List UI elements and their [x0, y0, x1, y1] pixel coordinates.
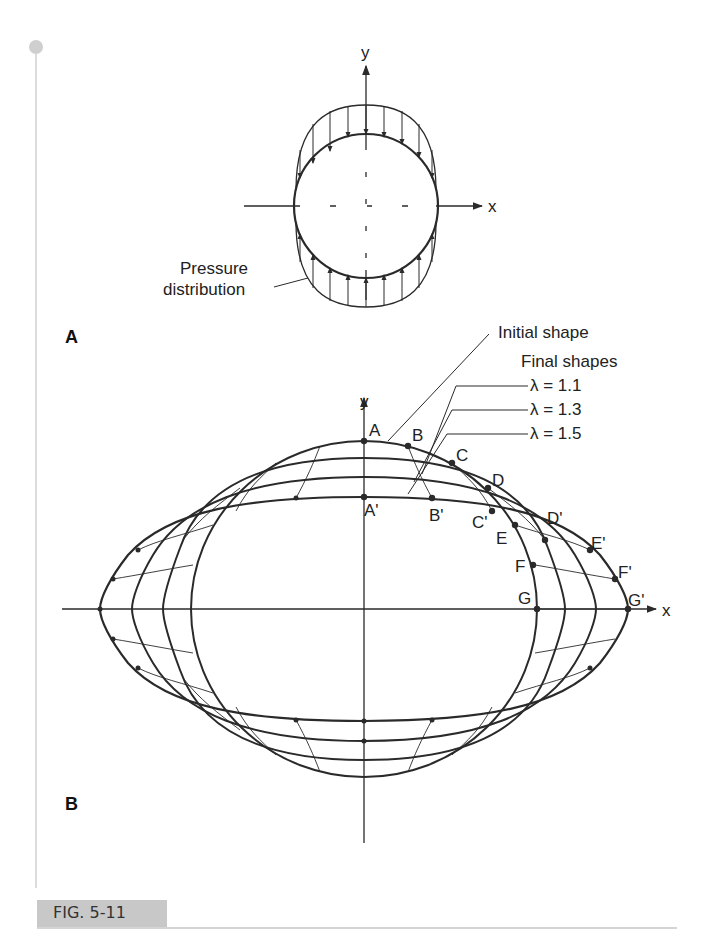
figure-canvas: y x Pressure distribution A	[0, 0, 710, 930]
panel-b-label: B	[65, 794, 78, 814]
lambda-label-1-1: λ = 1.1	[530, 376, 582, 395]
panel-a	[244, 66, 482, 307]
point-label-c: C	[456, 446, 468, 465]
panel-b-y-label: y	[360, 392, 369, 411]
point-label-c-prime: C'	[472, 513, 488, 532]
point-label-d-prime: D'	[547, 509, 563, 528]
point-label-b: B	[412, 426, 423, 445]
pressure-label-line2: distribution	[163, 280, 245, 299]
point-label-e-prime: E'	[591, 534, 606, 553]
pressure-label-line1: Pressure	[180, 259, 248, 278]
point-label-g: G	[518, 589, 531, 608]
pressure-leader-line	[274, 278, 308, 287]
point-label-f-prime: F'	[618, 563, 632, 582]
point-label-g-prime: G'	[628, 591, 644, 610]
initial-shape-label: Initial shape	[498, 323, 589, 342]
point-label-d: D	[492, 471, 504, 490]
lambda-label-1-3: λ = 1.3	[530, 400, 582, 419]
point-label-a-prime: A'	[364, 501, 379, 520]
panel-b-x-label: x	[662, 601, 671, 620]
final-shapes-label: Final shapes	[521, 352, 617, 371]
point-label-f: F	[515, 557, 525, 576]
point-label-e: E	[496, 529, 507, 548]
caption-rule	[37, 927, 677, 929]
panel-a-y-label: y	[361, 43, 370, 62]
panel-a-x-label: x	[488, 197, 497, 216]
point-label-a: A	[369, 421, 381, 440]
lambda-label-1-5: λ = 1.5	[530, 424, 582, 443]
panel-a-label: A	[65, 327, 78, 347]
figure-caption: FIG. 5-11	[53, 903, 126, 922]
point-label-b-prime: B'	[429, 506, 444, 525]
